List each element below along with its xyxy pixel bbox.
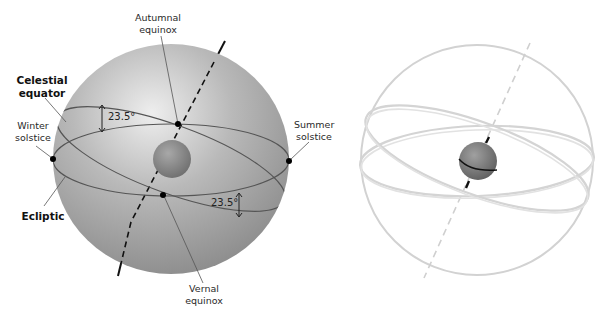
label-winter-line1: Winter bbox=[12, 120, 54, 132]
wire-earth-axis-top bbox=[486, 137, 489, 143]
leader-winter-solstice bbox=[36, 146, 52, 158]
diagram-stage: Autumnal equinox Celestial equator Winte… bbox=[0, 0, 610, 319]
label-celestial-equator: Celestial equator bbox=[14, 74, 70, 99]
label-autumnal-line1: Autumnal bbox=[135, 12, 181, 24]
label-ecliptic: Ecliptic bbox=[20, 210, 66, 223]
label-summer-line1: Summer bbox=[294, 119, 334, 131]
label-vernal-line1: Vernal bbox=[184, 283, 224, 295]
autumnal-equinox-dot bbox=[175, 121, 181, 127]
vernal-equinox-dot bbox=[160, 192, 166, 198]
leader-celestial-equator bbox=[45, 98, 66, 122]
wire-earth bbox=[459, 142, 497, 180]
label-celestial-line2: equator bbox=[14, 87, 70, 100]
winter-solstice-dot bbox=[50, 156, 56, 162]
label-celestial-line1: Celestial bbox=[14, 74, 70, 87]
label-vernal-equinox: Vernal equinox bbox=[184, 283, 224, 306]
label-winter-solstice: Winter solstice bbox=[12, 120, 54, 143]
summer-solstice-dot bbox=[286, 158, 292, 164]
leader-summer-solstice bbox=[290, 142, 309, 160]
tilt-label-upper: 23.5° bbox=[108, 111, 135, 122]
left-celestial-sphere bbox=[36, 36, 309, 283]
earth bbox=[153, 140, 191, 178]
label-autumnal-equinox: Autumnal equinox bbox=[135, 12, 181, 35]
label-winter-line2: solstice bbox=[12, 132, 54, 144]
right-celestial-sphere-wireframe bbox=[354, 43, 600, 278]
label-summer-solstice: Summer solstice bbox=[294, 119, 334, 142]
tilt-label-lower: 23.5° bbox=[211, 197, 238, 208]
label-summer-line2: solstice bbox=[294, 131, 334, 143]
label-autumnal-line2: equinox bbox=[135, 24, 181, 36]
diagram-svg bbox=[0, 0, 610, 319]
wire-earth-axis-bottom bbox=[466, 181, 469, 188]
label-vernal-line2: equinox bbox=[184, 295, 224, 307]
